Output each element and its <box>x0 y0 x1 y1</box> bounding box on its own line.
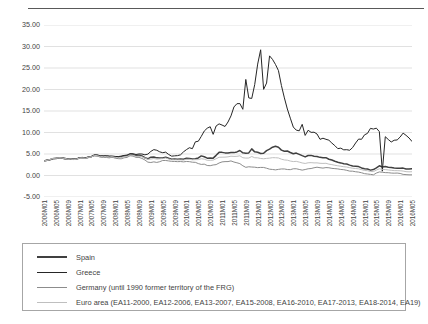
legend-item[interactable]: Spain <box>37 250 95 264</box>
x-axis-tick-label: 2007M05 <box>88 200 95 226</box>
chart-container: 35.0030.0025.0020.0015.0010.005.000.00-5… <box>0 0 428 324</box>
y-axis-tick-label: -5.00 <box>0 193 40 200</box>
x-axis-tick-label: 2015M09 <box>385 200 392 226</box>
x-axis-tick-label: 2015M01 <box>362 200 369 226</box>
x-axis-tick-label: 2014M05 <box>338 200 345 226</box>
x-axis-tick-label: 2013M01 <box>290 200 297 226</box>
plot-svg <box>44 25 412 197</box>
x-axis-tick-label: 2010M09 <box>207 200 214 226</box>
x-axis-tick-label: 2012M05 <box>267 200 274 226</box>
y-axis-tick-label: 20.00 <box>0 86 40 93</box>
top-rule-divider <box>28 8 424 9</box>
y-axis-tick-label: 0.00 <box>0 172 40 179</box>
y-axis-tick-label: 35.00 <box>0 21 40 28</box>
x-axis-tick-label: 2008M09 <box>136 200 143 226</box>
series-line-euro <box>44 155 412 172</box>
x-axis-tick-label: 2006M01 <box>41 200 48 226</box>
legend-item-label: Greece <box>76 268 100 277</box>
legend-item-label: Spain <box>76 253 95 262</box>
x-axis-tick-label: 2011M09 <box>243 200 250 226</box>
x-axis-tick-label: 2013M09 <box>314 200 321 226</box>
y-axis-tick-label: 5.00 <box>0 150 40 157</box>
y-axis-tick-label: 15.00 <box>0 107 40 114</box>
x-axis-tick-label: 2006M05 <box>53 200 60 226</box>
x-axis-tick-label: 2008M01 <box>112 200 119 226</box>
chart-legend: SpainGreeceGermany (until 1990 former te… <box>22 243 406 311</box>
legend-line-swatch <box>37 302 67 303</box>
x-axis-tick-label: 2009M01 <box>148 200 155 226</box>
legend-item[interactable]: Greece <box>37 265 100 279</box>
legend-item[interactable]: Euro area (EA11-2000, EA12-2006, EA13-20… <box>37 295 421 309</box>
legend-item[interactable]: Germany (until 1990 former territory of … <box>37 280 234 294</box>
y-axis-tick-label: 25.00 <box>0 64 40 71</box>
x-axis-tick-label: 2014M01 <box>326 200 333 226</box>
x-axis-tick-label: 2007M09 <box>100 200 107 226</box>
x-axis-tick-label: 2014M09 <box>350 200 357 226</box>
series-line-germany <box>44 156 412 175</box>
x-axis-tick-label: 2011M01 <box>219 200 226 226</box>
x-axis-tick-label: 2015M05 <box>373 200 380 226</box>
legend-item-label: Germany (until 1990 former territory of … <box>76 283 234 292</box>
legend-item-label: Euro area (EA11-2000, EA12-2006, EA13-20… <box>76 298 421 307</box>
legend-line-swatch <box>37 256 67 258</box>
x-axis-tick-label: 2012M09 <box>278 200 285 226</box>
x-axis-tick-label: 2007M01 <box>77 200 84 226</box>
x-axis-tick-label: 2009M05 <box>160 200 167 226</box>
legend-line-swatch <box>37 272 67 273</box>
series-line-spain <box>44 146 412 170</box>
x-axis-tick-label: 2016M01 <box>397 200 404 226</box>
x-axis-tick-label: 2009M09 <box>172 200 179 226</box>
x-axis-tick-label: 2011M05 <box>231 200 238 226</box>
x-axis-tick-label: 2016M05 <box>409 200 416 226</box>
x-axis-tick-label: 2008M05 <box>124 200 131 226</box>
x-axis-tick-label: 2013M05 <box>302 200 309 226</box>
y-axis-tick-label: 10.00 <box>0 129 40 136</box>
legend-line-swatch <box>37 287 67 288</box>
y-axis-tick-label: 30.00 <box>0 43 40 50</box>
x-axis-tick-label: 2010M01 <box>183 200 190 226</box>
x-axis-tick-label: 2006M09 <box>65 200 72 226</box>
x-axis-tick-label: 2010M05 <box>195 200 202 226</box>
plot-area <box>44 25 412 197</box>
x-axis-tick-label: 2012M01 <box>255 200 262 226</box>
